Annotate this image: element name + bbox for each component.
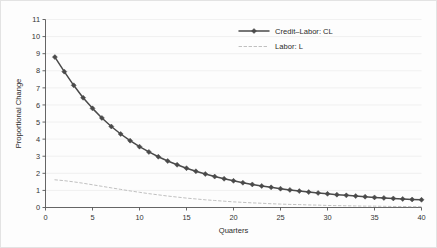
chart-figure: 012345678910110510152025303540QuartersPr…	[0, 0, 437, 248]
data-point-marker	[175, 162, 180, 167]
y-tick-label: 0	[36, 203, 40, 212]
data-point-marker	[297, 189, 302, 194]
data-point-marker	[353, 194, 358, 199]
y-axis-ticks: 01234567891011	[32, 15, 46, 212]
data-point-marker	[250, 182, 255, 187]
y-tick-label: 7	[36, 84, 40, 93]
data-point-marker	[363, 194, 368, 199]
data-point-marker	[325, 191, 330, 196]
x-tick-label: 0	[43, 213, 47, 222]
x-tick-label: 5	[90, 213, 94, 222]
y-tick-label: 4	[36, 135, 40, 144]
data-point-marker	[344, 193, 349, 198]
x-tick-label: 25	[276, 213, 284, 222]
series-line-credit-labor-cl	[55, 57, 422, 200]
chart-plot-area: 012345678910110510152025303540QuartersPr…	[1, 1, 437, 248]
x-tick-label: 10	[135, 213, 143, 222]
data-series-group	[52, 55, 424, 207]
data-point-marker	[165, 159, 170, 164]
legend-marker-sample	[252, 29, 257, 34]
data-point-marker	[400, 196, 405, 201]
data-point-marker	[334, 192, 339, 197]
data-point-marker	[287, 187, 292, 192]
x-axis-title: Quarters	[219, 226, 249, 235]
x-tick-label: 20	[229, 213, 237, 222]
y-tick-label: 11	[32, 15, 40, 24]
data-point-marker	[410, 197, 415, 202]
legend-label: Labor: L	[275, 42, 303, 51]
data-point-marker	[231, 178, 236, 183]
data-point-marker	[269, 185, 274, 190]
x-tick-label: 40	[417, 213, 425, 222]
data-point-marker	[419, 197, 424, 202]
x-axis-ticks: 0510152025303540	[43, 208, 425, 222]
series-line-labor-l	[55, 180, 422, 207]
data-point-marker	[372, 195, 377, 200]
data-point-marker	[240, 180, 245, 185]
y-tick-label: 6	[36, 101, 40, 110]
y-tick-label: 9	[36, 49, 40, 58]
grid-lines	[46, 20, 422, 191]
series-markers-credit-labor-cl	[52, 55, 424, 203]
data-point-marker	[184, 166, 189, 171]
data-point-marker	[259, 183, 264, 188]
y-tick-label: 1	[36, 186, 40, 195]
y-tick-label: 8	[36, 66, 40, 75]
data-point-marker	[203, 172, 208, 177]
y-tick-label: 10	[32, 32, 40, 41]
data-point-marker	[156, 154, 161, 159]
data-point-marker	[391, 196, 396, 201]
data-point-marker	[222, 176, 227, 181]
data-point-marker	[212, 174, 217, 179]
data-point-marker	[381, 195, 386, 200]
y-tick-label: 5	[36, 118, 40, 127]
y-tick-label: 2	[36, 169, 40, 178]
x-tick-label: 35	[370, 213, 378, 222]
y-tick-label: 3	[36, 152, 40, 161]
x-tick-label: 15	[182, 213, 190, 222]
y-axis-title: Proportional Change	[14, 79, 23, 149]
chart-legend: Credit–Labor: CLLabor: L	[239, 27, 333, 52]
data-point-marker	[316, 190, 321, 195]
legend-label: Credit–Labor: CL	[275, 27, 333, 36]
x-tick-label: 30	[323, 213, 331, 222]
